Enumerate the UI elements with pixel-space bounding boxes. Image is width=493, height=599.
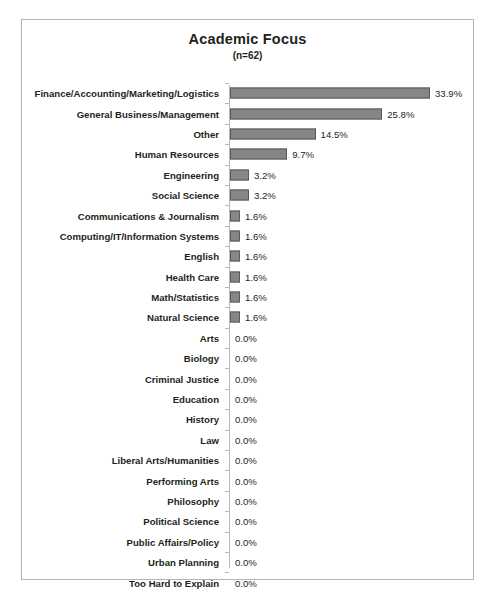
bar [230,190,249,201]
chart-row: Criminal Justice0.0% [22,368,473,388]
chart-row: Liberal Arts/Humanities0.0% [22,450,473,470]
axis-tick [225,572,229,573]
category-label: Law [200,434,219,445]
page-title: Academic Focus [22,31,473,48]
axis-tick [225,368,229,369]
axis-tick [225,185,229,186]
axis-tick [225,470,229,471]
axis-tick [225,307,229,308]
chart-frame: Academic Focus (n=62) Finance/Accounting… [21,19,474,580]
chart-row: Math/Statistics1.6% [22,287,473,307]
bar-value-label: 33.9% [435,88,462,99]
bar-value-label: 0.0% [235,332,257,343]
bar [230,312,240,323]
category-label: Too Hard to Explain [129,577,219,588]
bar-value-label: 1.6% [245,230,267,241]
chart-row: Law0.0% [22,430,473,450]
category-label: Finance/Accounting/Marketing/Logistics [35,88,219,99]
category-label: Engineering [164,169,219,180]
bar-value-label: 9.7% [292,149,314,160]
axis-tick [225,267,229,268]
bar-value-label: 0.0% [235,373,257,384]
bar [230,128,316,139]
category-label: Natural Science [147,312,219,323]
bar-value-label: 3.2% [254,169,276,180]
chart-row: General Business/Management25.8% [22,103,473,123]
category-label: Public Affairs/Policy [127,536,219,547]
bar [230,108,382,119]
bar [230,271,240,282]
bar [230,149,287,160]
bar-chart-plot-area: Finance/Accounting/Marketing/Logistics33… [22,83,473,575]
axis-tick [225,430,229,431]
category-label: Human Resources [135,149,219,160]
bar-value-label: 0.0% [235,577,257,588]
bar-value-label: 0.0% [235,496,257,507]
chart-row: Political Science0.0% [22,511,473,531]
axis-tick [225,165,229,166]
chart-row: Urban Planning0.0% [22,552,473,572]
chart-row: Too Hard to Explain0.0% [22,572,473,592]
axis-tick [225,348,229,349]
category-label: Social Science [152,190,219,201]
axis-tick [225,287,229,288]
axis-tick [225,144,229,145]
axis-tick [225,389,229,390]
bar [230,210,240,221]
chart-rows: Finance/Accounting/Marketing/Logistics33… [22,83,473,593]
chart-row: Engineering3.2% [22,165,473,185]
bar-value-label: 1.6% [245,292,267,303]
axis-tick [225,246,229,247]
axis-tick [225,450,229,451]
bar-value-label: 1.6% [245,271,267,282]
category-label: Criminal Justice [145,373,219,384]
axis-tick [225,409,229,410]
bar-value-label: 0.0% [235,536,257,547]
bar-value-label: 14.5% [321,128,348,139]
bar [230,292,240,303]
category-label: English [184,251,219,262]
bar-value-label: 25.8% [387,108,414,119]
chart-row: Biology0.0% [22,348,473,368]
chart-row: Other14.5% [22,124,473,144]
chart-row: Philosophy0.0% [22,491,473,511]
category-label: Urban Planning [148,557,219,568]
bar-value-label: 0.0% [235,353,257,364]
axis-tick [225,103,229,104]
bar-value-label: 1.6% [245,312,267,323]
chart-row: Finance/Accounting/Marketing/Logistics33… [22,83,473,103]
category-label: Liberal Arts/Humanities [112,455,219,466]
category-label: Communications & Journalism [78,210,219,221]
category-label: History [186,414,219,425]
chart-row: Computing/IT/Information Systems1.6% [22,226,473,246]
axis-tick [225,328,229,329]
category-label: Arts [200,332,219,343]
category-label: General Business/Management [77,108,219,119]
bar-value-label: 3.2% [254,190,276,201]
bar [230,88,430,99]
chart-row: Natural Science1.6% [22,307,473,327]
chart-row: Human Resources9.7% [22,144,473,164]
axis-tick [225,83,229,84]
bar-value-label: 0.0% [235,434,257,445]
axis-tick [225,226,229,227]
bar-value-label: 0.0% [235,394,257,405]
axis-tick [225,511,229,512]
axis-tick [225,532,229,533]
axis-tick [225,552,229,553]
bar [230,169,249,180]
bar-value-label: 0.0% [235,414,257,425]
axis-tick [225,491,229,492]
chart-row: Education0.0% [22,389,473,409]
chart-row: Arts0.0% [22,328,473,348]
category-label: Performing Arts [146,475,219,486]
axis-tick [225,205,229,206]
chart-row: Public Affairs/Policy0.0% [22,532,473,552]
chart-row: Performing Arts0.0% [22,470,473,490]
chart-row: Communications & Journalism1.6% [22,205,473,225]
category-label: Other [193,128,219,139]
category-label: Philosophy [167,496,219,507]
category-label: Health Care [166,271,219,282]
bar-value-label: 0.0% [235,475,257,486]
category-label: Computing/IT/Information Systems [60,230,219,241]
